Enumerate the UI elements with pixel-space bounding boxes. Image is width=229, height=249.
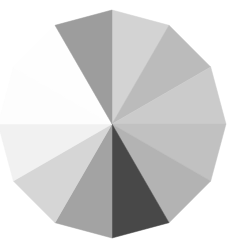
polygon-pie-chart <box>0 0 229 249</box>
pie-svg <box>0 0 229 249</box>
